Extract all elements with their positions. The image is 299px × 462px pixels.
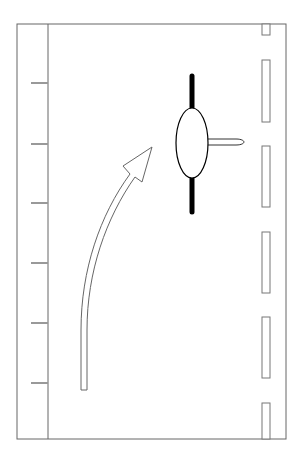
right-lane-markers (262, 24, 270, 439)
lane-diagram (0, 0, 299, 462)
ellipse-body (176, 108, 208, 178)
curved-arrow-icon (81, 147, 152, 390)
obstacle-object (176, 76, 244, 212)
left-ticks (31, 83, 48, 383)
pin (208, 139, 244, 145)
frame (17, 24, 286, 439)
